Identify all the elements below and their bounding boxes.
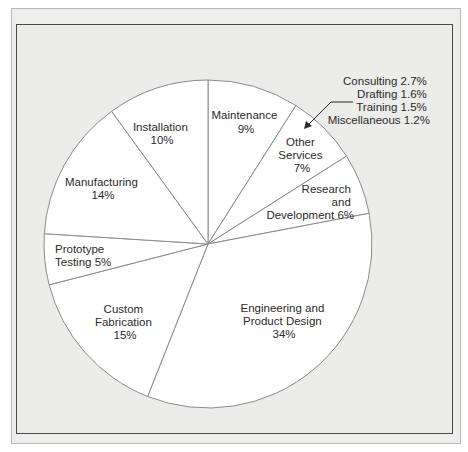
pie-chart: Maintenance 9% Other Services 7% Researc… [0, 0, 468, 452]
label-prototype-testing: Prototype Testing 5% [55, 243, 111, 268]
other-services-breakdown: Consulting 2.7% Drafting 1.6% Training 1… [328, 75, 430, 126]
